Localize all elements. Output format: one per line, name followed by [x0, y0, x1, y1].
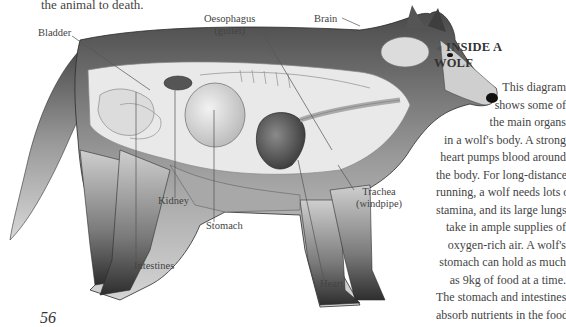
caption-line: take in ample supplies of	[436, 219, 566, 237]
caption-line: absorb nutrients in the food.	[436, 307, 566, 325]
caption-title-line1: INSIDE A	[446, 40, 502, 54]
caption-body: This diagram shows some of the main orga…	[436, 79, 566, 324]
caption-line: heart pumps blood around	[436, 149, 566, 167]
left-arrow-icon: ◄	[434, 43, 443, 53]
label-trachea-name: Trachea	[356, 186, 402, 198]
label-oesophagus-name: Oesophagus	[204, 13, 255, 25]
label-intestines: Intestines	[134, 260, 174, 272]
label-oesophagus-alt: (gullet)	[204, 25, 255, 37]
page-number: 56	[40, 309, 56, 327]
label-bladder: Bladder	[38, 27, 71, 39]
caption-line: the main organs	[436, 114, 566, 132]
caption-heading: ◄INSIDE A WOLF	[434, 40, 566, 71]
label-brain: Brain	[314, 13, 337, 25]
caption-line: in a wolf's body. A strong	[436, 132, 566, 150]
caption-line: stamina, and its large lungs	[436, 202, 566, 220]
caption-title-line2: WOLF	[434, 56, 566, 71]
label-trachea: Trachea (windpipe)	[356, 186, 402, 210]
label-oesophagus: Oesophagus (gullet)	[204, 13, 255, 37]
caption-line: The stomach and intestines	[436, 289, 566, 307]
caption-line: oxygen-rich air. A wolf's	[436, 237, 566, 255]
label-kidney: Kidney	[158, 195, 189, 207]
label-trachea-alt: (windpipe)	[356, 198, 402, 210]
caption-line: as 9kg of food at a time.	[436, 272, 566, 290]
label-stomach: Stomach	[206, 220, 243, 232]
caption-line: stomach can hold as much	[436, 254, 566, 272]
caption-line: the body. For long-distance	[436, 167, 566, 185]
label-heart: Heart	[320, 278, 343, 290]
caption-line: This diagram	[436, 79, 566, 97]
caption-line: shows some of	[436, 97, 566, 115]
caption-line: running, a wolf needs lots of	[436, 184, 566, 202]
